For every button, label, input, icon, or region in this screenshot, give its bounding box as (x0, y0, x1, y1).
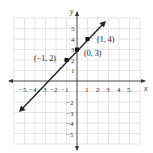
x-axis-arrow-right-icon (141, 79, 146, 83)
svg-text:−3: −3 (66, 110, 74, 118)
svg-text:5: 5 (71, 25, 75, 33)
svg-text:1: 1 (85, 86, 89, 94)
svg-text:5: 5 (127, 86, 131, 94)
y-axis-arrow-down-icon (75, 146, 79, 151)
svg-text:−1: −1 (61, 86, 69, 94)
x-axis-label: x (143, 84, 148, 93)
line-series (19, 21, 106, 112)
x-tick-labels: −5 −4 3 −2 −1 1 2 3 4 5 (19, 86, 131, 94)
svg-text:2: 2 (96, 86, 100, 94)
svg-text:−4: −4 (29, 86, 37, 94)
y-tick-labels: 5 4 3 2 1 −2 −3 −4 −5 (66, 25, 75, 139)
svg-text:1: 1 (71, 67, 75, 75)
svg-text:4: 4 (71, 36, 75, 44)
y-axis-arrow-up-icon (75, 11, 79, 16)
point-neg1-2 (65, 58, 69, 62)
point-label-1-4: (1, 4) (97, 35, 115, 44)
svg-text:−2: −2 (50, 86, 58, 94)
svg-text:−2: −2 (66, 99, 74, 107)
svg-text:−5: −5 (66, 131, 74, 139)
svg-text:2: 2 (71, 57, 75, 65)
point-label-0-3: (0, 3) (84, 49, 102, 58)
point-label-neg1-2: (−1, 2) (34, 54, 56, 63)
x-axis-arrow-left-icon (8, 79, 13, 83)
svg-text:3: 3 (71, 46, 75, 54)
point-0-3 (75, 48, 79, 52)
svg-text:3: 3 (106, 86, 110, 94)
y-axis-label: y (69, 7, 74, 16)
point-1-4 (86, 37, 90, 41)
svg-text:−4: −4 (66, 120, 74, 128)
svg-text:−5: −5 (19, 86, 27, 94)
coordinate-graph: x y −5 −4 3 −2 −1 1 2 3 4 5 5 4 3 2 1 −2… (0, 0, 153, 153)
svg-text:4: 4 (117, 86, 121, 94)
